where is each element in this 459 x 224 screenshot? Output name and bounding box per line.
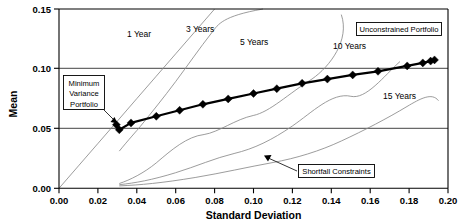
x-tick-label: 0.16 <box>361 195 380 206</box>
shortfall-constraints-callout: Shortfall Constraints <box>264 155 375 178</box>
y-tick-label: 0.10 <box>33 63 52 74</box>
y-axis-title: Mean <box>7 91 19 118</box>
x-tick-label: 0.18 <box>400 195 419 206</box>
chart-canvas: 0.15 0.10 0.05 0.00 0.00 0.02 0.04 0.06 … <box>0 0 459 224</box>
x-tick-label: 0.04 <box>128 195 147 206</box>
data-point-marker <box>273 85 281 93</box>
y-tick-label: 0.05 <box>33 123 52 134</box>
y-axis-tick-labels: 0.15 0.10 0.05 0.00 <box>33 4 52 194</box>
data-point-marker <box>199 100 207 108</box>
data-point-marker <box>176 106 184 114</box>
curve-label-3-years: 3 Years <box>186 24 214 34</box>
x-axis-tick-labels: 0.00 0.02 0.04 0.06 0.08 0.10 0.12 0.14 … <box>50 195 458 206</box>
y-axis-ticks <box>54 9 59 188</box>
data-point-marker <box>323 75 331 83</box>
x-axis-title: Standard Deviation <box>206 209 302 221</box>
curve-label-10-years: 10 Years <box>333 41 366 51</box>
mvp-label-line-1: Minimum <box>69 79 100 88</box>
y-tick-label: 0.15 <box>33 4 52 15</box>
x-tick-label: 0.00 <box>50 195 69 206</box>
mvp-label-line-2: Variance <box>69 89 98 98</box>
curve-label-1-year: 1 Year <box>127 29 151 39</box>
unconstrained-portfolio-callout: Unconstrained Portfolio <box>357 23 442 36</box>
y-tick-label: 0.00 <box>33 183 52 194</box>
minimum-variance-portfolio-callout: Minimum Variance Portfolio <box>64 76 118 124</box>
mvp-label-line-3: Portfolio <box>70 100 98 109</box>
shortfall-label: Shortfall Constraints <box>302 167 371 176</box>
curve-label-15-years: 15 Years <box>383 91 416 101</box>
data-point-marker <box>250 90 258 98</box>
shortfall-leader-line <box>266 157 297 171</box>
data-point-marker <box>152 112 160 120</box>
data-point-marker <box>298 79 306 87</box>
constraint-curve-15-years <box>119 97 438 186</box>
x-tick-label: 0.02 <box>89 195 108 206</box>
data-point-marker <box>349 71 357 79</box>
x-tick-label: 0.10 <box>244 195 263 206</box>
x-tick-label: 0.12 <box>283 195 302 206</box>
data-point-marker <box>224 95 232 103</box>
unconstrained-label: Unconstrained Portfolio <box>360 25 439 34</box>
shortfall-constraints-chart: 0.15 0.10 0.05 0.00 0.00 0.02 0.04 0.06 … <box>0 0 459 224</box>
x-tick-label: 0.08 <box>205 195 224 206</box>
curve-label-5-years: 5 Years <box>240 37 268 47</box>
shortfall-leader-arrow <box>264 155 272 162</box>
x-axis-ticks <box>59 188 448 193</box>
data-point-marker <box>419 59 427 67</box>
x-tick-label: 0.14 <box>322 195 341 206</box>
x-tick-label: 0.06 <box>166 195 185 206</box>
x-tick-label: 0.20 <box>439 195 458 206</box>
